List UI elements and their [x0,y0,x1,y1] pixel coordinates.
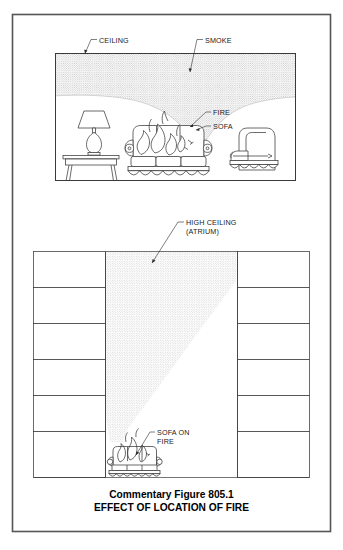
atrium-sofa-boss-left [107,459,112,464]
armchair-fringe [230,165,278,169]
label-high-ceiling-line2: (ATRIUM) [186,227,219,236]
floor-slabs-left [34,252,106,478]
effect-of-location-of-fire-figure: CEILING SMOKE FIRE SOFA [0,0,343,550]
floor-slab-right-2 [238,288,310,324]
floor-slabs-right [238,252,310,478]
sofa-skirt [128,167,209,171]
floor-slab-left-6 [34,432,106,478]
atrium-sofa-seat [112,465,157,471]
floor-slab-right-5 [238,396,310,432]
floor-slab-right-6 [238,432,310,478]
floor-slab-right-3 [238,324,310,360]
label-sofa: SOFA [213,122,233,131]
sofa-seat-cushion-2 [156,157,181,167]
armchair-skirt [230,161,278,165]
floor-slab-left-1 [34,252,106,288]
floor-slab-left-2 [34,288,106,324]
figure-caption-line2: EFFECT OF LOCATION OF FIRE [94,502,249,513]
sofa-arm-boss-left [125,144,133,152]
label-ceiling: CEILING [99,36,129,45]
label-smoke: SMOKE [205,36,232,45]
sofa-arm-boss-right [203,144,211,152]
figure-container: CEILING SMOKE FIRE SOFA [0,0,343,550]
atrium-sofa-skirt [109,471,160,474]
figure-caption-line1: Commentary Figure 805.1 [109,489,234,500]
label-high-ceiling-line1: HIGH CEILING [186,218,237,227]
floor-slab-left-5 [34,396,106,432]
panel-top-normal-ceiling-room: CEILING SMOKE FIRE SOFA [56,36,296,182]
floor-slab-left-4 [34,360,106,396]
table-apron [66,159,117,165]
label-fire: FIRE [213,108,230,117]
sofa-seat-cushion-1 [131,157,156,167]
label-sofa-on-fire-line1: SOFA ON [157,428,190,437]
floor-slab-right-4 [238,360,310,396]
lamp-base [88,153,100,156]
panel-bottom-atrium-section: HIGH CEILING (ATRIUM) SOFA ON FIRE [34,218,310,478]
lamp-shade [78,111,110,128]
table-top [63,156,119,159]
atrium-sofa-boss-right [157,459,162,464]
label-sofa-on-fire-line2: FIRE [157,437,174,446]
floor-slab-left-3 [34,324,106,360]
floor-slab-right-1 [238,252,310,288]
sofa-seat-cushion-3 [181,157,206,167]
